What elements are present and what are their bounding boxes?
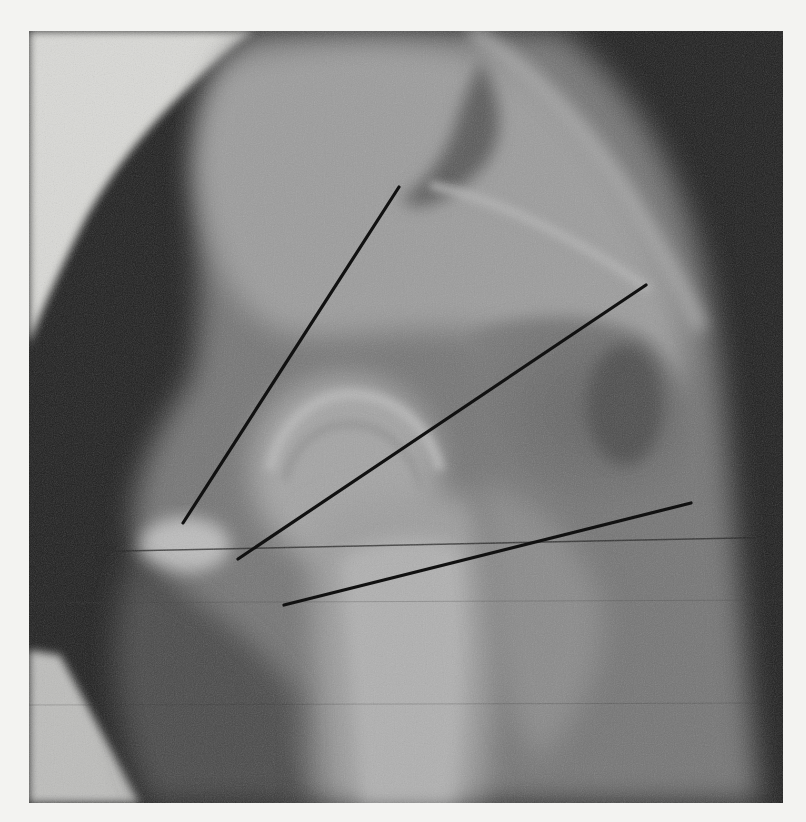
xray-content [29, 31, 783, 803]
page [0, 0, 806, 822]
xray-image [0, 0, 806, 822]
